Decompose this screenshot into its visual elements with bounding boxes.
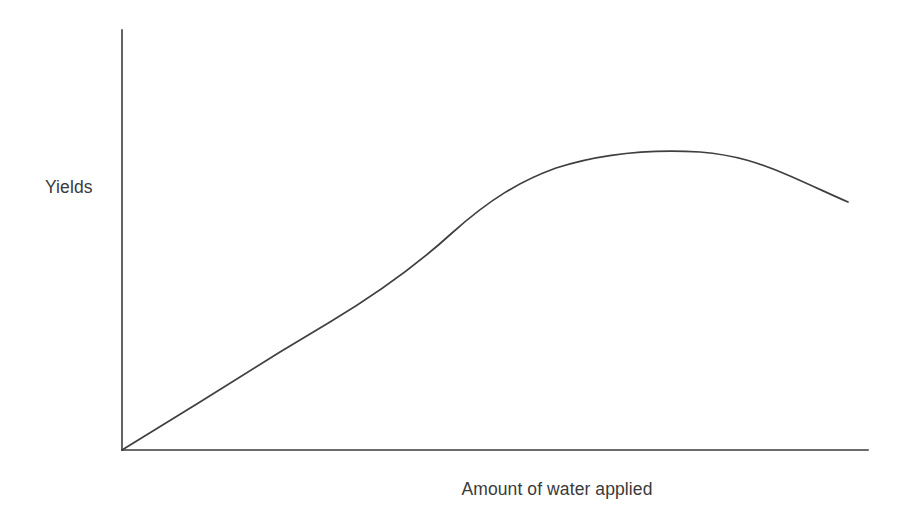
chart-background bbox=[0, 0, 906, 510]
x-axis-label-container: Amount of water applied bbox=[0, 478, 906, 500]
y-axis-label: Yields bbox=[45, 177, 93, 197]
x-axis-label: Amount of water applied bbox=[461, 478, 652, 500]
chart-figure: Yields Amount of water applied bbox=[0, 0, 906, 510]
chart-canvas bbox=[0, 0, 906, 510]
